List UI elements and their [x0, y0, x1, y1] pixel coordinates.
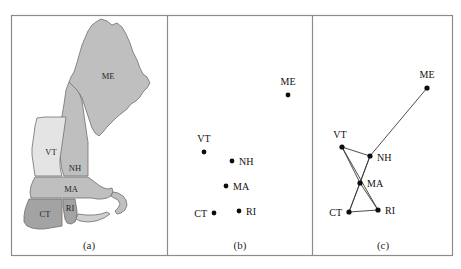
map-label-nh: NH [69, 163, 81, 173]
graph-label-ri: RI [385, 205, 395, 216]
panel-caption-b: (b) [234, 239, 247, 252]
node-label-nh: NH [239, 156, 253, 167]
graph-node-ct[interactable] [346, 209, 351, 214]
node-label-vt: VT [197, 133, 210, 144]
node-point-vt[interactable] [202, 150, 207, 155]
graph-node-ri[interactable] [375, 207, 380, 212]
graph-label-ma: MA [367, 178, 384, 189]
graph-label-me: ME [420, 69, 435, 80]
node-point-ri[interactable] [237, 209, 242, 214]
node-label-me: ME [281, 76, 296, 87]
graph-label-vt: VT [333, 129, 346, 140]
node-label-ct: CT [194, 208, 207, 219]
panel-caption-c: (c) [377, 239, 390, 252]
figure-svg: ME VT NH MA CT RI (a) ME VT NH MA RI CT … [0, 0, 461, 269]
panel-caption-a: (a) [83, 239, 96, 252]
graph-node-vt[interactable] [339, 144, 344, 149]
map-label-ct: CT [40, 209, 52, 219]
node-label-ma: MA [233, 181, 250, 192]
graph-node-me[interactable] [424, 85, 429, 90]
figure-container: ME VT NH MA CT RI (a) ME VT NH MA RI CT … [0, 0, 461, 269]
map-label-vt: VT [45, 147, 57, 157]
node-point-ct[interactable] [212, 211, 217, 216]
map-label-ma: MA [64, 184, 79, 194]
graph-label-nh: NH [377, 152, 391, 163]
map-label-me: ME [102, 71, 115, 81]
node-point-nh[interactable] [230, 159, 235, 164]
node-point-me[interactable] [286, 93, 291, 98]
graph-node-nh[interactable] [367, 153, 372, 158]
graph-label-ct: CT [329, 207, 342, 218]
map-label-ri: RI [66, 203, 75, 213]
node-label-ri: RI [246, 206, 256, 217]
graph-node-ma[interactable] [357, 180, 362, 185]
node-point-ma[interactable] [224, 184, 229, 189]
